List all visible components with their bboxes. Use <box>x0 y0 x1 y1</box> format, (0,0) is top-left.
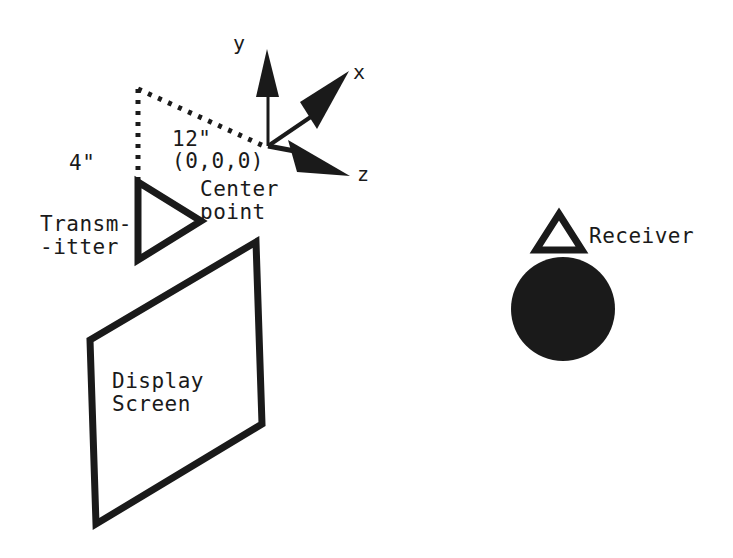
z-axis-arrowhead <box>288 140 350 176</box>
origin-coordinates-label: (0,0,0) <box>172 149 264 173</box>
x-axis-label: x <box>353 60 365 84</box>
diagonal-dimension-label: 12" <box>172 127 211 151</box>
y-axis-arrowhead <box>256 49 279 97</box>
display-screen-label-line1: Display <box>112 369 204 393</box>
z-axis-label: z <box>357 162 369 186</box>
center-point-label-line2: point <box>200 200 266 224</box>
diagram-canvas: y x z 4" 12" (0,0,0) Center po <box>0 0 733 558</box>
vertical-dimension-label: 4" <box>69 151 95 175</box>
display-screen-label-line2: Screen <box>112 392 191 416</box>
head-circle <box>511 257 615 361</box>
transmitter-label-line1: Transm- <box>40 212 132 236</box>
receiver-label: Receiver <box>589 224 694 248</box>
y-axis-label: y <box>233 31 245 55</box>
transmitter-group <box>138 182 201 260</box>
receiver-group <box>536 214 582 250</box>
technical-diagram-svg: y x z 4" 12" (0,0,0) Center po <box>0 0 733 558</box>
transmitter-label-line2: -itter <box>40 235 119 259</box>
center-point-label-line1: Center <box>200 177 279 201</box>
receiver-triangle <box>536 214 582 250</box>
transmitter-triangle <box>138 182 201 260</box>
